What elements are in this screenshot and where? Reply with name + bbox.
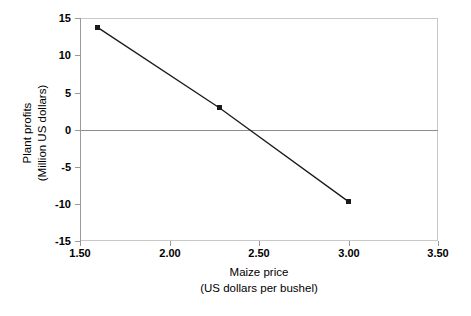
x-axis-title-line1: Maize price	[80, 264, 438, 280]
x-tick-mark	[80, 241, 81, 246]
y-tick-mark	[75, 204, 81, 205]
x-tick-label: 1.50	[50, 247, 110, 259]
y-axis-title-line1: Plant profits	[20, 38, 35, 228]
x-tick-mark	[170, 241, 171, 246]
y-tick-mark	[75, 167, 81, 168]
x-tick-mark	[349, 241, 350, 246]
x-tick-label: 2.00	[140, 247, 200, 259]
data-point-marker	[217, 105, 222, 110]
y-tick-mark	[75, 130, 81, 131]
zero-reference-line	[80, 130, 438, 131]
chart-container: 15 10 5 0 -5 -10 -15 1.50 2.00 2.50 3.00…	[0, 0, 471, 316]
x-tick-label: 3.00	[319, 247, 379, 259]
x-tick-mark	[438, 241, 439, 246]
y-axis-title: Plant profits (Million US dollars)	[20, 38, 50, 228]
y-tick-mark	[75, 55, 81, 56]
x-tick-label: 2.50	[229, 247, 289, 259]
y-tick-label: -15	[38, 236, 71, 247]
x-tick-mark	[259, 241, 260, 246]
x-axis-title-line2: (US dollars per bushel)	[80, 280, 438, 296]
data-point-marker	[95, 25, 100, 30]
x-tick-label: 3.50	[408, 247, 468, 259]
y-axis-title-line2: (Million US dollars)	[35, 38, 50, 228]
data-point-marker	[346, 199, 351, 204]
y-tick-mark	[75, 18, 81, 19]
y-tick-mark	[75, 93, 81, 94]
y-tick-label: 15	[38, 13, 71, 24]
x-axis-title: Maize price (US dollars per bushel)	[80, 264, 438, 296]
